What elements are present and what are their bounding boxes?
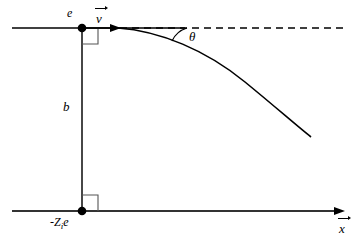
scattering-diagram: e v b θ -Zie x <box>0 0 361 244</box>
velocity-vector-label: v <box>95 6 102 25</box>
target-charge-main: -Z <box>50 215 61 229</box>
target-charge-label: -Zie <box>50 216 69 231</box>
deflection-angle-label: θ <box>189 30 195 43</box>
x-vector-arrow-tip-icon <box>348 216 351 220</box>
x-axis-label: x <box>338 216 345 235</box>
diagram-canvas <box>0 0 361 244</box>
nucleus-point-marker <box>78 207 87 216</box>
impact-parameter-label: b <box>63 100 70 113</box>
theta-arc-icon <box>172 28 187 41</box>
trajectory-curve <box>118 28 311 137</box>
incident-particle-label: e <box>67 7 72 19</box>
vector-arrow-tip-icon <box>105 6 108 10</box>
target-charge-unit: e <box>63 215 68 229</box>
x-axis-arrowhead-icon <box>334 207 345 215</box>
electron-point-marker <box>78 24 87 33</box>
